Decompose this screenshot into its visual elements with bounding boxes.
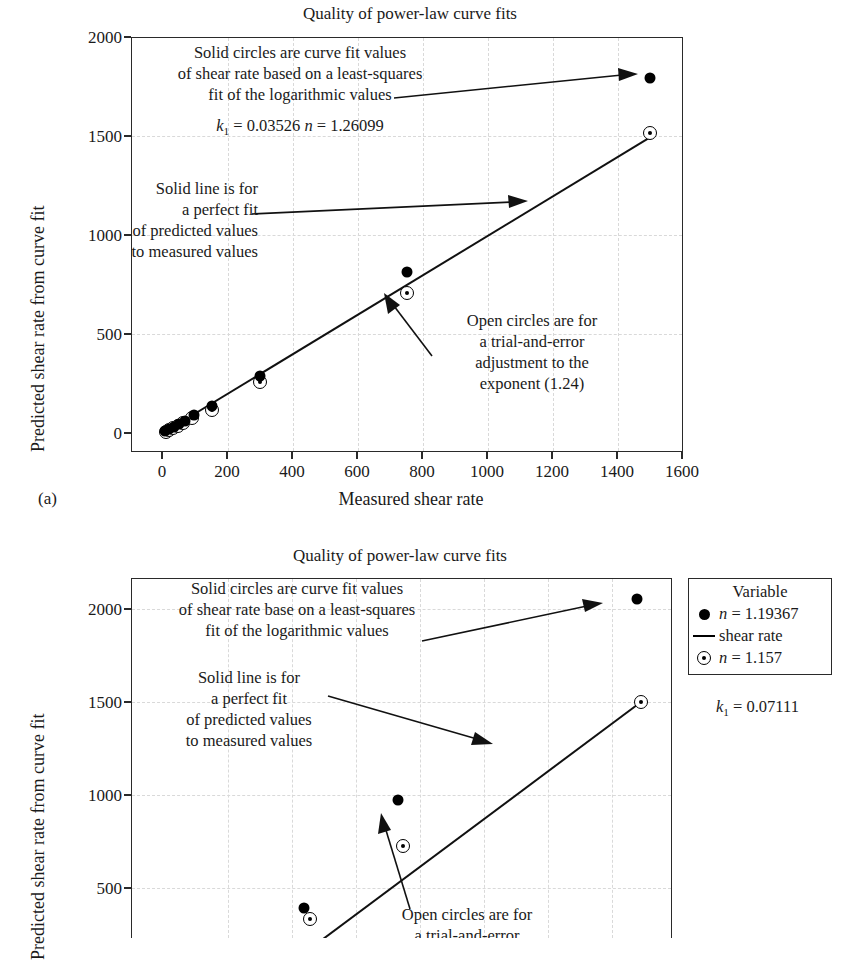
- line-icon: [689, 635, 719, 637]
- chart-a-ytickmark-1500: [124, 135, 131, 137]
- chart-a-param-n-symbol: n: [304, 116, 312, 135]
- chart-a-xtick-1000: 1000: [456, 462, 518, 482]
- data-point-open: [643, 126, 657, 140]
- chart-b-legend: Variable n = 1.19367 shear rate n = 1.15…: [688, 578, 832, 675]
- data-point-solid: [393, 795, 404, 806]
- chart-b-title: Quality of power-law curve fits: [190, 546, 610, 566]
- chart-a-ytick-0: 0: [60, 424, 122, 444]
- data-point-solid: [299, 903, 310, 914]
- chart-a-ytickmark-1000: [124, 234, 131, 236]
- open-circle-icon: [689, 651, 719, 665]
- chart-b-ytick-2000: 2000: [60, 600, 122, 620]
- chart-a-xtickmark-600: [356, 452, 358, 459]
- chart-a-annotation-open-circles: Open circles are for a trial-and-error a…: [437, 310, 627, 394]
- chart-a-title: Quality of power-law curve fits: [200, 4, 620, 24]
- chart-a-x-axis-title: Measured shear rate: [281, 489, 541, 510]
- chart-a-xtickmark-800: [421, 452, 423, 459]
- panel-a-letter: (a): [38, 489, 57, 509]
- chart-b-annotation-solid-line: Solid line is for a perfect fit of predi…: [154, 667, 344, 751]
- chart-b-annotation-open-circles: Open circles are for a trial-and-error: [362, 904, 572, 938]
- chart-a-ytickmark-2000: [124, 36, 131, 38]
- chart-a-ytick-1000: 1000: [60, 226, 122, 246]
- chart-b-gridline-y500: [132, 888, 671, 889]
- data-point-solid: [402, 267, 413, 278]
- legend-label-open: n = 1.157: [719, 648, 831, 668]
- chart-a-param-n-value: = 1.26099: [313, 116, 384, 135]
- data-point-open: [634, 695, 648, 709]
- data-point-open: [303, 912, 317, 926]
- chart-b-ytickmark-1000: [124, 794, 131, 796]
- chart-a-xtickmark-1200: [551, 452, 553, 459]
- data-point-open: [400, 286, 414, 300]
- chart-a-xtick-800: 800: [391, 462, 453, 482]
- data-point-solid: [645, 73, 656, 84]
- chart-a-xtickmark-0: [161, 452, 163, 459]
- chart-b-annotation-solid-circles: Solid circles are curve fit values of sh…: [142, 578, 452, 641]
- legend-title: Variable: [689, 582, 831, 602]
- chart-b-legend-note-k1: k1 = 0.07111: [716, 697, 799, 718]
- chart-a-annotation-solid-line: Solid line is for a perfect fit of predi…: [131, 178, 258, 262]
- chart-a-ytickmark-500: [124, 333, 131, 335]
- chart-a-xtick-400: 400: [261, 462, 323, 482]
- chart-a-xtickmark-1600: [681, 452, 683, 459]
- chart-a-xtick-0: 0: [131, 462, 193, 482]
- chart-b-plot-area: Solid circles are curve fit values of sh…: [131, 578, 672, 938]
- chart-a-xtick-1600: 1600: [651, 462, 713, 482]
- data-point-open: [396, 839, 410, 853]
- solid-circle-icon: [689, 609, 719, 620]
- chart-a-xtickmark-400: [291, 452, 293, 459]
- legend-row-open[interactable]: n = 1.157: [689, 648, 831, 668]
- legend-row-solid[interactable]: n = 1.19367: [689, 604, 831, 624]
- chart-a-param-k-value: = 0.03526: [229, 116, 304, 135]
- chart-b-ytick-1500: 1500: [60, 693, 122, 713]
- chart-b-gridline-v7: [612, 579, 613, 938]
- legend-label-solid: n = 1.19367: [719, 604, 831, 624]
- legend-row-line[interactable]: shear rate: [689, 626, 831, 646]
- chart-a-xtick-600: 600: [326, 462, 388, 482]
- chart-b-ytickmark-500: [124, 887, 131, 889]
- chart-a-parameters: k1 = 0.03526 n = 1.26099: [150, 116, 450, 137]
- data-point-solid: [255, 371, 266, 382]
- chart-a-ytick-1500: 1500: [60, 127, 122, 147]
- chart-b-y-axis-title: Predicted shear rate from curve fit: [28, 714, 49, 960]
- data-point-solid: [207, 401, 218, 412]
- data-point-solid: [632, 594, 643, 605]
- chart-a-ytick-2000: 2000: [60, 28, 122, 48]
- chart-a-xtickmark-1000: [486, 452, 488, 459]
- chart-a-xtick-200: 200: [196, 462, 258, 482]
- chart-a-plot-area: Solid circles are curve fit values of sh…: [131, 37, 683, 452]
- chart-a-annotation-solid-circles: Solid circles are curve fit values of sh…: [150, 42, 450, 105]
- data-point-solid: [189, 410, 200, 421]
- chart-a-xtickmark-1400: [616, 452, 618, 459]
- chart-a-ytickmark-0: [124, 432, 131, 434]
- chart-b-ytickmark-1500: [124, 701, 131, 703]
- chart-a-ytick-500: 500: [60, 325, 122, 345]
- chart-b-ytickmark-2000: [124, 608, 131, 610]
- chart-a-xtickmark-200: [226, 452, 228, 459]
- legend-label-line: shear rate: [719, 626, 831, 646]
- chart-b-gridline-v6: [548, 579, 549, 938]
- chart-a-xtick-1400: 1400: [586, 462, 648, 482]
- chart-b-ytick-500: 500: [60, 879, 122, 899]
- chart-a-y-axis-title: Predicted shear rate from curve fit: [28, 206, 49, 452]
- chart-a-xtick-1200: 1200: [521, 462, 583, 482]
- chart-b-gridline-v5: [484, 579, 485, 938]
- chart-b-ytick-1000: 1000: [60, 786, 122, 806]
